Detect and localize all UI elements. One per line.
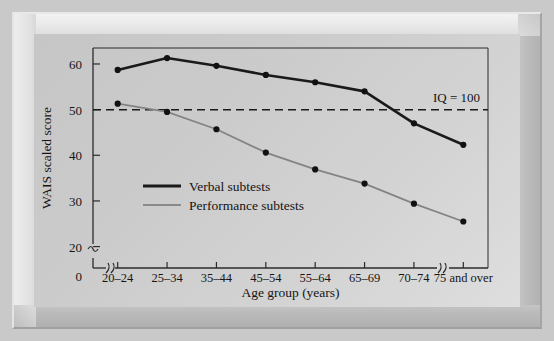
x-tick-label: 75 and over (434, 271, 494, 285)
data-point (361, 88, 367, 94)
x-tick-label: 45–54 (250, 271, 282, 285)
frame-bevel-corner-bottomleft (14, 305, 36, 327)
data-point (460, 142, 466, 148)
y-tick-label: 20 (69, 240, 82, 255)
line-chart: 2030405060020–2425–3435–4445–5455–6465–6… (34, 34, 520, 307)
y-axis-title: WAIS scaled score (39, 107, 54, 209)
data-point (361, 180, 367, 186)
reference-line-label: IQ = 100 (433, 90, 480, 105)
data-point (115, 101, 121, 107)
data-point (213, 63, 219, 69)
data-point (312, 166, 318, 172)
data-point (263, 72, 269, 78)
data-point (263, 149, 269, 155)
y-tick-label: 40 (69, 148, 82, 163)
data-point (115, 67, 121, 73)
frame-bevel-left (14, 14, 36, 327)
x-tick-label: 55–64 (300, 271, 332, 285)
y-tick-label: 30 (69, 194, 82, 209)
y-tick-label: 60 (69, 57, 82, 72)
y-tick-label: 50 (69, 103, 82, 118)
data-point (164, 109, 170, 115)
data-point (312, 79, 318, 85)
figure-container: 2030405060020–2425–3435–4445–5455–6465–6… (0, 0, 554, 341)
chart-panel: 2030405060020–2425–3435–4445–5455–6465–6… (34, 34, 520, 307)
frame-bevel-top (14, 14, 540, 36)
data-point (411, 201, 417, 207)
y-zero-label: 0 (76, 269, 83, 284)
x-tick-label: 25–34 (151, 271, 183, 285)
data-point (411, 120, 417, 126)
data-point (460, 218, 466, 224)
x-tick-label: 35–44 (201, 271, 233, 285)
legend-label: Verbal subtests (189, 179, 270, 194)
y-axis-break-mark (88, 247, 98, 252)
x-tick-label: 70–74 (398, 271, 430, 285)
frame-bevel-corner-topright (518, 14, 540, 36)
frame-bevel-bottom (14, 305, 540, 327)
x-axis-title: Age group (years) (241, 285, 339, 300)
data-point (213, 126, 219, 132)
x-tick-label: 65–69 (349, 271, 380, 285)
x-tick-label: 20–24 (102, 271, 134, 285)
data-point (164, 55, 170, 61)
legend-label: Performance subtests (189, 198, 304, 213)
series-line-verbal (118, 58, 464, 145)
frame-bevel-right (518, 14, 540, 327)
